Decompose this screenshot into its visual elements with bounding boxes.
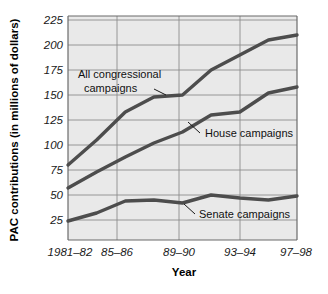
- chart-figure: 225 200 175 150 125 100 75 50 25 1981–82…: [0, 0, 328, 294]
- xtick-label-97-98: 97–98: [280, 246, 313, 258]
- senate-campaigns-label: Senate campaigns: [199, 208, 291, 220]
- ytick-label-175: 175: [44, 64, 64, 76]
- xtick-label-89-90: 89–90: [163, 246, 196, 258]
- ytick-label-150: 150: [44, 89, 64, 101]
- pac-contributions-line-chart: 225 200 175 150 125 100 75 50 25 1981–82…: [0, 0, 328, 294]
- house-campaigns-label: House campaigns: [205, 127, 294, 139]
- all-congressional-campaigns-label-line1: All congressional: [78, 68, 161, 80]
- xtick-label-85-86: 85–86: [101, 246, 134, 258]
- all-congressional-campaigns-label-line2: campaigns: [84, 82, 138, 94]
- ytick-label-100: 100: [44, 139, 64, 151]
- ytick-label-225: 225: [43, 14, 64, 26]
- xtick-label-1981-82: 1981–82: [48, 246, 93, 258]
- ytick-label-200: 200: [43, 39, 64, 51]
- ytick-label-125: 125: [44, 114, 64, 126]
- y-axis-title: PAC contributions (in millions of dollar…: [8, 18, 20, 241]
- xtick-label-93-94: 93–94: [224, 246, 256, 258]
- ytick-label-50: 50: [50, 189, 63, 201]
- ytick-label-75: 75: [50, 164, 63, 176]
- x-axis-title: Year: [172, 266, 197, 278]
- ytick-label-25: 25: [49, 214, 63, 226]
